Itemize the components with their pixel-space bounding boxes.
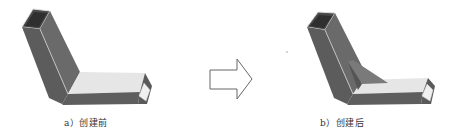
panel-a-tube-before xyxy=(0,0,200,115)
panel-b-tube-after xyxy=(250,0,450,115)
caption-before: a）创建前 xyxy=(64,116,108,129)
caption-after: b）创建后 xyxy=(320,116,364,129)
